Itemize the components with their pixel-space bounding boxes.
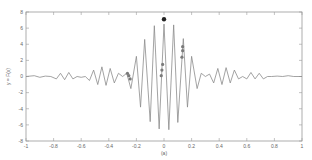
x-axis-label: (a) (161, 150, 167, 156)
waveform-line (26, 24, 302, 130)
data-marker (161, 63, 164, 66)
y-tick-label: 8 (20, 9, 23, 15)
x-tick-label: 0 (163, 143, 166, 149)
x-tick-label: 0.4 (216, 143, 223, 149)
data-marker (160, 68, 163, 71)
x-tick-label: 0.6 (243, 143, 250, 149)
x-tick-label: 1 (301, 143, 304, 149)
y-tick-label: 0 (20, 73, 23, 79)
y-tick-label: 2 (20, 57, 23, 63)
y-tick-label: -4 (19, 106, 24, 112)
data-marker (181, 45, 184, 48)
x-tick-label: -0.6 (77, 143, 86, 149)
x-tick-label: -1 (24, 143, 29, 149)
y-tick-label: 4 (20, 41, 23, 47)
data-marker (127, 74, 130, 77)
x-tick-label: 0.8 (271, 143, 278, 149)
data-marker (160, 74, 163, 77)
data-marker (162, 17, 166, 21)
data-marker (181, 49, 184, 52)
y-axis-label: y = F(x) (5, 68, 11, 85)
y-tick-label: -6 (19, 122, 24, 128)
y-tick-label: -8 (19, 138, 24, 144)
y-tick-label: -2 (19, 89, 24, 95)
x-tick-label: -0.2 (132, 143, 141, 149)
x-tick-label: -0.4 (104, 143, 113, 149)
y-tick-label: 6 (20, 25, 23, 31)
data-marker (180, 56, 183, 59)
chart: 86420-2-4-6-8 -1-0.8-0.6-0.4-0.200.20.40… (0, 0, 312, 160)
data-marker (129, 77, 132, 80)
x-tick-label: 0.2 (188, 143, 195, 149)
x-tick-label: -0.8 (49, 143, 58, 149)
